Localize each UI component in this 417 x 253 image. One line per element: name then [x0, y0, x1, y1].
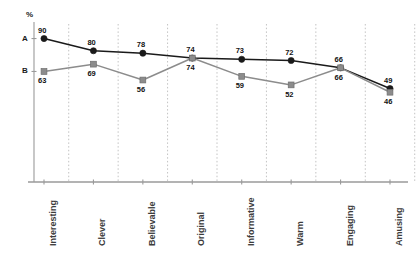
data-point-b: [239, 73, 245, 79]
x-axis-category-label: Interesting: [48, 200, 58, 246]
x-axis-category-label: Original: [196, 212, 206, 246]
x-axis-category-label: Clever: [97, 218, 107, 246]
value-label-a: 66: [335, 55, 343, 64]
value-label-a: 73: [236, 46, 244, 55]
line-chart: % A B 90807874737266496369567459526646In…: [0, 0, 417, 253]
value-label-b: 52: [285, 90, 293, 99]
data-point-a: [140, 50, 146, 56]
x-axis-category-label: Engaging: [345, 205, 355, 246]
data-point-b: [41, 69, 47, 75]
value-label-b: 63: [38, 76, 46, 85]
x-axis-category-label: Amusing: [394, 207, 404, 246]
data-point-b: [387, 89, 393, 95]
data-point-a: [41, 35, 47, 41]
x-axis-category-label: Believable: [147, 201, 157, 246]
value-label-a: 78: [137, 40, 145, 49]
value-label-b: 59: [236, 81, 244, 90]
data-point-b: [338, 65, 344, 71]
value-label-b: 74: [186, 63, 194, 72]
data-point-b: [140, 77, 146, 83]
data-point-a: [90, 48, 96, 54]
data-point-a: [288, 57, 294, 63]
x-axis-category-label: Warm: [295, 221, 305, 246]
value-label-a: 74: [186, 45, 194, 54]
value-label-b: 69: [87, 69, 95, 78]
value-label-a: 49: [384, 76, 392, 85]
value-label-a: 80: [87, 38, 95, 47]
x-axis-category-label: Informative: [246, 197, 256, 246]
value-label-b: 66: [335, 73, 343, 82]
data-point-b: [189, 55, 195, 61]
value-label-a: 72: [285, 48, 293, 57]
data-point-a: [239, 56, 245, 62]
value-label-a: 90: [38, 26, 46, 35]
value-label-b: 46: [384, 97, 392, 106]
data-point-b: [288, 82, 294, 88]
value-label-b: 56: [137, 85, 145, 94]
data-point-b: [91, 61, 97, 67]
